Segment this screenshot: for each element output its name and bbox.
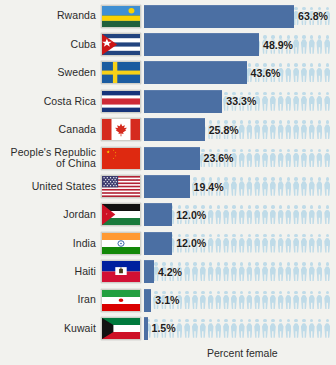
person-icon xyxy=(308,291,315,310)
country-label: Costa Rica xyxy=(0,96,101,108)
person-icon xyxy=(324,234,331,253)
person-icon xyxy=(262,120,269,139)
person-icon xyxy=(184,262,191,281)
person-icon xyxy=(324,92,331,111)
person-icon xyxy=(270,177,277,196)
country-label-line: Canada xyxy=(0,124,96,136)
person-icon xyxy=(308,92,315,111)
value-bar xyxy=(144,118,205,141)
person-icon xyxy=(324,149,331,168)
country-label-line: Jordan xyxy=(0,209,96,221)
value-bar xyxy=(144,203,172,226)
person-icon xyxy=(262,291,269,310)
person-icon xyxy=(184,319,191,338)
person-icon xyxy=(246,177,253,196)
value-bar xyxy=(144,289,151,312)
value-label: 25.8% xyxy=(209,124,239,136)
value-label: 1.5% xyxy=(152,322,176,334)
person-icon xyxy=(285,319,292,338)
person-icon xyxy=(301,234,308,253)
person-icon xyxy=(324,262,331,281)
person-icon xyxy=(262,205,269,224)
person-icon xyxy=(246,120,253,139)
chart-row: Jordan 12.0% xyxy=(0,201,336,229)
value-label: 43.6% xyxy=(251,67,281,79)
person-icon xyxy=(316,120,323,139)
value-label: 19.4% xyxy=(194,181,224,193)
value-bar xyxy=(144,232,172,255)
person-icon xyxy=(215,319,222,338)
person-icon xyxy=(254,262,261,281)
person-icon xyxy=(270,234,277,253)
rwanda-flag xyxy=(101,5,141,28)
person-icon xyxy=(301,262,308,281)
person-icon xyxy=(277,234,284,253)
value-label: 12.0% xyxy=(176,209,206,221)
person-icon xyxy=(316,35,323,54)
person-icon xyxy=(293,234,300,253)
person-icon xyxy=(254,234,261,253)
person-icon xyxy=(223,177,230,196)
country-label: Cuba xyxy=(0,39,101,51)
person-icon xyxy=(316,291,323,310)
person-icon xyxy=(215,291,222,310)
person-icon xyxy=(316,177,323,196)
value-label: 33.3% xyxy=(226,95,256,107)
bar-plot-area: 1.5% xyxy=(144,317,336,340)
value-label: 63.8% xyxy=(298,10,328,22)
country-label-line: Costa Rica xyxy=(0,96,96,108)
person-icon xyxy=(301,63,308,82)
person-icon xyxy=(293,92,300,111)
person-icon xyxy=(223,262,230,281)
person-icon xyxy=(293,149,300,168)
person-icon xyxy=(293,177,300,196)
bar-plot-area: 43.6% xyxy=(144,61,336,84)
person-icon xyxy=(262,234,269,253)
person-icon xyxy=(324,35,331,54)
haiti-flag xyxy=(101,260,141,283)
person-icon xyxy=(223,319,230,338)
value-label: 4.2% xyxy=(158,266,182,278)
person-icon xyxy=(238,120,245,139)
bar-plot-area: 25.8% xyxy=(144,118,336,141)
value-label: 3.1% xyxy=(155,294,179,306)
country-label: Haiti xyxy=(0,266,101,278)
person-icon xyxy=(270,120,277,139)
person-icon xyxy=(301,120,308,139)
jordan-flag xyxy=(101,203,141,226)
country-label: Sweden xyxy=(0,67,101,79)
india-flag xyxy=(101,232,141,255)
person-icon xyxy=(246,262,253,281)
person-icon xyxy=(316,63,323,82)
person-icon xyxy=(192,262,199,281)
chart-row: United States 19.4% xyxy=(0,172,336,200)
value-bar xyxy=(144,90,222,113)
person-icon xyxy=(285,120,292,139)
x-axis-label: Percent female xyxy=(207,347,278,359)
person-icon xyxy=(285,149,292,168)
person-icon xyxy=(308,319,315,338)
person-icon xyxy=(277,149,284,168)
country-label-line: Kuwait xyxy=(0,323,96,335)
person-icon xyxy=(293,63,300,82)
value-bar xyxy=(144,33,259,56)
chart-rows: Rwanda 63.8%Cuba 48.9%Sweden 43.6%Costa … xyxy=(0,0,336,343)
chart-row: People's Republicof China 23.6% xyxy=(0,144,336,172)
person-icon xyxy=(199,319,206,338)
person-icon xyxy=(293,120,300,139)
person-icon xyxy=(254,291,261,310)
person-icon xyxy=(316,92,323,111)
person-icon xyxy=(277,177,284,196)
person-icon xyxy=(316,262,323,281)
person-icon xyxy=(262,262,269,281)
person-icon xyxy=(285,92,292,111)
person-icon xyxy=(207,319,214,338)
china-flag xyxy=(101,147,141,170)
bar-plot-area: 63.8% xyxy=(144,5,336,28)
value-bar xyxy=(144,260,154,283)
kuwait-flag xyxy=(101,317,141,340)
person-icon xyxy=(277,319,284,338)
costa-rica-flag xyxy=(101,90,141,113)
country-label-line: Haiti xyxy=(0,266,96,278)
person-icon xyxy=(207,291,214,310)
